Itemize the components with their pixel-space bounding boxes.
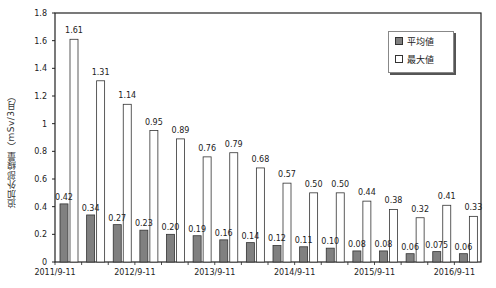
y-tick-label: 1.8 [34,9,47,18]
bar-average [459,254,467,262]
bar-label-average: 0.20 [162,223,180,232]
y-axis-label: 追加外部線量（mSv/3月） [4,70,20,230]
bar-label-max: 0.44 [358,188,376,197]
x-tick-label: 2015/9-11 [354,268,395,277]
bar-average [326,248,334,262]
bar-max [97,81,105,262]
bar-max [390,209,398,262]
x-tick-label: 2011/9-11 [34,268,75,277]
bar-average [87,215,95,262]
bar-label-average: 0.19 [188,225,206,234]
bar-average [140,230,148,262]
bar-label-average: 0.12 [268,234,286,243]
bar-label-max: 0.33 [464,203,482,212]
bar-average [406,254,414,262]
bar-average [273,245,281,262]
legend-label-average: 平均値 [407,35,434,48]
y-tick-label: 0.4 [34,203,47,212]
bar-label-average: 0.14 [241,232,259,241]
bar-label-max: 0.89 [172,126,190,135]
bar-average [167,234,175,262]
bar-label-average: 0.42 [55,193,73,202]
bar-average [193,236,201,262]
bar-max [310,193,318,262]
bar-max [336,193,344,262]
y-tick-label: 0.8 [34,147,47,156]
y-tick-label: 1.2 [34,92,47,101]
bar-label-average: 0.16 [215,229,233,238]
bar-max [363,201,371,262]
bar-max [70,39,78,262]
bar-label-max: 0.32 [411,205,429,214]
bar-max [443,205,451,262]
x-tick-label: 2016/9-11 [434,268,475,277]
bar-label-average: 0.08 [348,240,366,249]
bar-label-max: 0.41 [438,192,456,201]
bar-label-max: 0.50 [305,180,323,189]
bar-max [283,183,291,262]
bar-max [203,157,211,262]
bar-label-average: 0.075 [425,241,448,250]
bar-average [300,247,308,262]
bar-label-max: 1.61 [65,26,83,35]
bar-max [416,218,424,262]
bar-max [123,104,131,262]
bar-label-average: 0.23 [135,219,153,228]
bar-average [433,252,441,262]
y-tick-label: 0.2 [34,230,47,239]
bar-label-max: 0.79 [225,140,243,149]
bar-label-average: 0.06 [401,243,419,252]
y-tick-label: 1 [42,120,47,129]
legend-label-max: 最大値 [407,53,434,66]
bar-label-average: 0.08 [375,240,393,249]
bar-label-average: 0.11 [295,236,313,245]
x-tick-label: 2013/9-11 [194,268,235,277]
bar-max [177,139,185,262]
x-tick-label: 2014/9-11 [274,268,315,277]
bar-average [380,251,388,262]
bar-label-max: 1.14 [118,91,136,100]
bar-label-average: 0.27 [108,214,126,223]
y-tick-label: 1.4 [34,64,47,73]
bar-max [150,131,158,262]
bar-label-max: 0.38 [385,196,403,205]
bar-max [230,153,238,262]
bar-label-max: 0.68 [251,155,269,164]
legend-item-average: 平均値 [389,32,453,50]
bar-max [469,216,477,262]
bar-label-max: 0.76 [198,144,216,153]
bar-label-max: 0.95 [145,118,163,127]
bar-average [353,251,361,262]
bar-label-max: 0.50 [331,180,349,189]
bar-label-max: 0.57 [278,170,296,179]
bar-average [113,225,121,262]
legend-swatch-average [395,37,403,45]
bar-label-average: 0.34 [82,204,100,213]
y-tick-label: 0.6 [34,175,47,184]
bar-average [60,204,68,262]
legend-swatch-max [395,55,403,63]
bar-label-average: 0.06 [454,243,472,252]
bar-max [256,168,264,262]
bar-average [220,240,228,262]
x-tick-label: 2012/9-11 [114,268,155,277]
legend-item-max: 最大値 [389,50,453,68]
bar-label-max: 1.31 [92,68,110,77]
y-tick-label: 0 [42,258,47,267]
y-tick-label: 1.6 [34,37,47,46]
bar-label-average: 0.10 [321,237,339,246]
bar-average [246,243,254,262]
legend: 平均値 最大値 [388,31,454,73]
